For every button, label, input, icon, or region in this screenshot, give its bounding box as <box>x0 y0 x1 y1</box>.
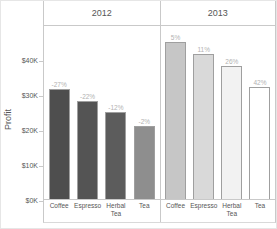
percent-change-label: -12% <box>108 104 123 111</box>
category-label: Coffee <box>162 202 189 222</box>
bar <box>49 89 70 199</box>
bar-column: -2% <box>131 118 158 200</box>
bar <box>221 66 242 199</box>
plot-area: 2012 -27%-22%-12%-2% CoffeeEspressoHerba… <box>43 1 276 223</box>
bar <box>193 54 214 199</box>
percent-change-label: 26% <box>225 58 238 65</box>
y-axis: Profit $40K$30K$20K$10K$0K <box>1 1 43 229</box>
category-label: Tea <box>131 202 158 222</box>
bars-2012: -27%-22%-12%-2% <box>44 26 160 200</box>
y-tick-label: $20K <box>22 127 38 134</box>
bar-column: -12% <box>102 104 129 200</box>
bar-column: 26% <box>218 58 245 199</box>
panel-2012: 2012 -27%-22%-12%-2% CoffeeEspressoHerba… <box>44 1 160 222</box>
y-axis-title: Profit <box>2 79 14 159</box>
bar <box>77 101 98 199</box>
bar <box>249 87 270 199</box>
percent-change-label: -27% <box>52 81 67 88</box>
percent-change-label: -2% <box>139 118 151 125</box>
column-header-2012: 2012 <box>44 1 160 26</box>
percent-change-label: 5% <box>171 34 180 41</box>
category-label: Herbal Tea <box>102 202 129 222</box>
category-label: Tea <box>246 202 273 222</box>
percent-change-label: 42% <box>253 79 266 86</box>
profit-bar-chart: Profit $40K$30K$20K$10K$0K 2012 -27%-22%… <box>0 0 277 229</box>
category-label: Espresso <box>190 202 217 222</box>
percent-change-label: -22% <box>80 93 95 100</box>
category-label: Coffee <box>46 202 73 222</box>
y-tick-label: $40K <box>22 57 38 64</box>
bar <box>165 42 186 200</box>
bars-2013: 5%11%26%42% <box>161 26 276 200</box>
y-tick-label: $0K <box>26 197 38 204</box>
category-labels-2013: CoffeeEspressoHerbal TeaTea <box>161 200 276 222</box>
category-label: Herbal Tea <box>218 202 245 222</box>
y-tick-label: $10K <box>22 162 38 169</box>
bar-column: 11% <box>190 46 217 199</box>
bar-column: 5% <box>162 34 189 200</box>
bar <box>134 126 155 200</box>
bar-column: -22% <box>74 93 101 199</box>
y-tick-label: $30K <box>22 92 38 99</box>
category-labels-2012: CoffeeEspressoHerbal TeaTea <box>44 200 160 222</box>
category-label: Espresso <box>74 202 101 222</box>
column-header-2013: 2013 <box>161 1 276 26</box>
bar-column: 42% <box>246 79 273 199</box>
panel-2013: 2013 5%11%26%42% CoffeeEspressoHerbal Te… <box>160 1 276 222</box>
bar <box>105 112 126 200</box>
bar-column: -27% <box>46 81 73 199</box>
percent-change-label: 11% <box>197 46 210 53</box>
